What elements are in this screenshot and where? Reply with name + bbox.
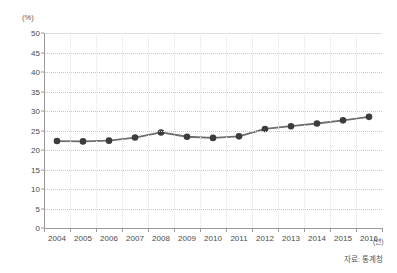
y-axis-tick-label-40: 40 [31, 68, 40, 77]
x-axis-tick-mark-11 [330, 228, 331, 232]
gridline-x-2007 [122, 33, 123, 228]
gridline-x-2010 [200, 33, 201, 228]
x-axis-tick-label-2006: 2006 [100, 234, 118, 243]
y-axis-tick-mark-15 [41, 169, 44, 170]
y-axis-tick-label-25: 25 [31, 126, 40, 135]
y-axis-tick-label-20: 20 [31, 146, 40, 155]
gridline-y-20 [44, 150, 382, 151]
data-point-2006[interactable] [106, 137, 113, 144]
gridline-x-2012 [252, 33, 253, 228]
x-axis-tick-mark-4 [148, 228, 149, 232]
gridline-y-50 [44, 33, 382, 34]
x-axis-tick-label-2011: 2011 [230, 234, 247, 243]
gridline-y-35 [44, 92, 382, 93]
x-axis-tick-label-2015: 2015 [334, 234, 352, 243]
x-axis-tick-mark-9 [278, 228, 279, 232]
data-point-2009[interactable] [184, 133, 191, 140]
x-axis-tick-label-2012: 2012 [256, 234, 274, 243]
data-point-2015[interactable] [340, 117, 347, 124]
y-axis-tick-mark-50 [41, 33, 44, 34]
x-axis-tick-label-2013: 2013 [282, 234, 300, 243]
data-point-2010[interactable] [210, 135, 217, 142]
y-axis-tick-label-15: 15 [31, 165, 40, 174]
y-axis-tick-label-10: 10 [31, 185, 40, 194]
x-axis-tick-label-2005: 2005 [74, 234, 92, 243]
gridline-y-10 [44, 189, 382, 190]
x-axis-tick-mark-8 [252, 228, 253, 232]
x-axis-tick-mark-6 [200, 228, 201, 232]
y-axis-tick-mark-25 [41, 130, 44, 131]
gridline-x-2013 [278, 33, 279, 228]
gridline-x-2005 [70, 33, 71, 228]
gridline-y-40 [44, 72, 382, 73]
x-axis-tick-label-2004: 2004 [48, 234, 66, 243]
y-axis-line [44, 33, 45, 229]
x-axis-tick-label-2014: 2014 [308, 234, 326, 243]
gridline-y-15 [44, 170, 382, 171]
y-axis-tick-label-50: 50 [31, 29, 40, 38]
gridline-x-2011 [226, 33, 227, 228]
x-axis-tick-mark-13 [382, 228, 383, 232]
x-axis-tick-mark-0 [44, 228, 45, 232]
gridline-y-30 [44, 111, 382, 112]
y-axis-tick-label-0: 0 [36, 224, 40, 233]
y-axis-tick-label-5: 5 [36, 204, 40, 213]
x-axis-tick-label-2007: 2007 [126, 234, 144, 243]
x-axis-tick-label-2016: 2016 [360, 234, 378, 243]
data-point-2004[interactable] [54, 138, 61, 145]
y-axis-tick-mark-10 [41, 189, 44, 190]
y-axis-tick-mark-45 [41, 52, 44, 53]
data-point-2011[interactable] [236, 133, 243, 140]
data-point-2016[interactable] [366, 114, 373, 121]
y-axis-tick-mark-20 [41, 150, 44, 151]
data-point-2014[interactable] [314, 120, 321, 127]
y-axis-tick-group: 05101520253035404550 [0, 0, 40, 273]
x-axis-tick-label-2010: 2010 [204, 234, 222, 243]
y-axis-tick-label-35: 35 [31, 87, 40, 96]
gridline-x-2009 [174, 33, 175, 228]
data-point-2007[interactable] [132, 134, 139, 141]
gridline-y-45 [44, 53, 382, 54]
x-axis-tick-label-2008: 2008 [152, 234, 170, 243]
x-axis-tick-mark-10 [304, 228, 305, 232]
x-axis-tick-mark-1 [70, 228, 71, 232]
data-point-2013[interactable] [288, 123, 295, 130]
y-axis-tick-mark-35 [41, 91, 44, 92]
y-axis-tick-label-45: 45 [31, 48, 40, 57]
gridline-y-25 [44, 131, 382, 132]
x-axis-tick-mark-7 [226, 228, 227, 232]
gridline-x-2016 [356, 33, 357, 228]
y-axis-tick-mark-30 [41, 111, 44, 112]
gridline-x-2014 [304, 33, 305, 228]
x-axis-line [44, 228, 382, 229]
x-axis-tick-mark-5 [174, 228, 175, 232]
gridline-x-2006 [96, 33, 97, 228]
x-axis-tick-label-2009: 2009 [178, 234, 196, 243]
y-axis-tick-label-30: 30 [31, 107, 40, 116]
x-axis-tick-mark-3 [122, 228, 123, 232]
data-point-2005[interactable] [80, 138, 87, 145]
y-axis-tick-mark-40 [41, 72, 44, 73]
gridline-x-2015 [330, 33, 331, 228]
gridline-y-5 [44, 209, 382, 210]
gridline-x-2008 [148, 33, 149, 228]
y-axis-tick-mark-5 [41, 208, 44, 209]
line-chart: (%) 05101520253035404550 (년) 자료: 통계청 200… [0, 0, 397, 273]
source-note: 자료: 통계청 [344, 253, 383, 264]
plot-area [44, 33, 382, 228]
x-axis-tick-mark-12 [356, 228, 357, 232]
x-axis-tick-mark-2 [96, 228, 97, 232]
